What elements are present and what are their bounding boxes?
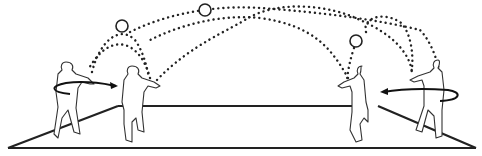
trajectory-ball3-to-p3 xyxy=(347,48,354,80)
trajectory-p3-arc xyxy=(150,17,348,78)
trajectories xyxy=(88,6,440,80)
ball-2 xyxy=(199,4,211,16)
trajectory-p2-to-p4 xyxy=(157,6,412,80)
trajectory-p1-to-p2 xyxy=(92,34,149,78)
player-2-figure xyxy=(122,66,160,142)
player-3-figure xyxy=(338,66,368,142)
diagram-canvas xyxy=(0,0,482,156)
balls xyxy=(116,4,362,47)
trajectory-ball2-arc xyxy=(130,7,440,76)
ball-3 xyxy=(350,35,362,47)
player-1-figure xyxy=(54,62,94,138)
drill-diagram xyxy=(0,0,482,156)
ball-1 xyxy=(116,20,128,32)
rotation-arrow-right xyxy=(380,88,458,101)
